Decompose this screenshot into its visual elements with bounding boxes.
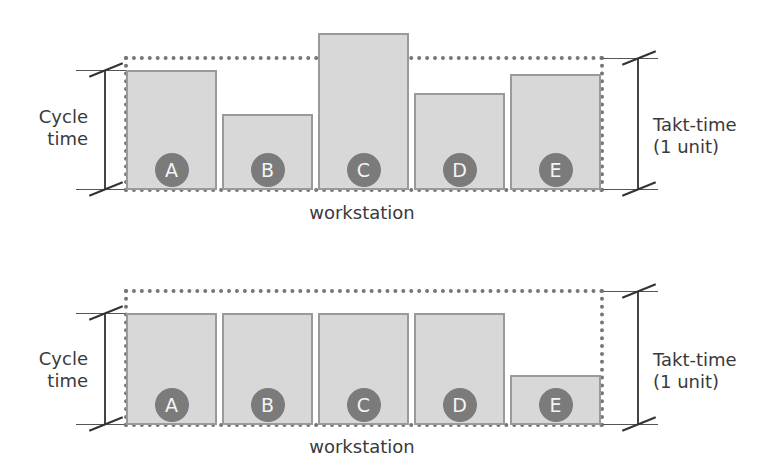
takt-time-label-line1: Takt-time	[653, 349, 737, 371]
station-badge-c: C	[347, 388, 381, 422]
cycle-time-label: Cycle time	[30, 348, 88, 392]
takt-time-label: Takt-time (1 unit)	[653, 349, 737, 393]
cycle-time-bracket	[104, 313, 106, 424]
cycle-time-label-line1: Cycle	[30, 348, 88, 370]
takt-time-label-line2: (1 unit)	[653, 371, 737, 393]
station-badge-b: B	[251, 388, 285, 422]
bar-b: B	[222, 313, 313, 425]
bottom-diagram: Cycle time A B C D E Takt-time (1 unit) …	[0, 0, 781, 471]
takt-time-bracket	[637, 291, 639, 424]
bar-c: C	[318, 313, 409, 425]
takt-bottom-guide	[603, 424, 658, 425]
station-badge-e: E	[539, 388, 573, 422]
bar-e: E	[510, 375, 601, 425]
bar-a: A	[126, 313, 217, 425]
station-badge-d: D	[443, 388, 477, 422]
cycle-time-label-line2: time	[30, 370, 88, 392]
x-axis-label: workstation	[262, 436, 462, 457]
takt-top-guide	[603, 291, 658, 292]
station-badge-a: A	[155, 388, 189, 422]
bar-d: D	[414, 313, 505, 425]
